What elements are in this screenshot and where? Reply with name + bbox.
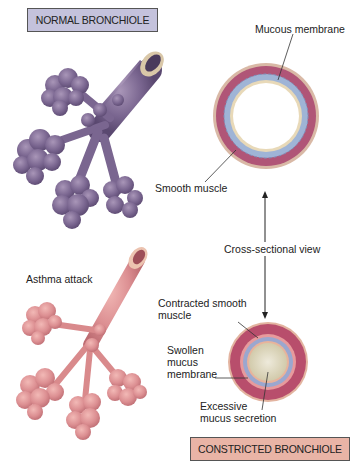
normal-bronchiole-illustration	[13, 47, 169, 229]
label-smooth-muscle: Smooth muscle	[155, 182, 227, 194]
label-cross-sectional-view: Cross-sectional view	[222, 243, 322, 255]
label-asthma-attack: Asthma attack	[26, 273, 93, 285]
normal-cross-section	[205, 34, 319, 182]
label-excessive-mucus-secretion: Excessive mucus secretion	[200, 400, 276, 424]
label-swollen-mucus-membrane: Swollen mucus membrane	[167, 344, 217, 380]
label-contracted-smooth-muscle: Contracted smooth muscle	[158, 297, 247, 321]
constricted-cross-section	[215, 322, 308, 410]
cross-section-arrow	[262, 191, 268, 319]
constricted-bronchiole-title: CONSTRICTED BRONCHIOLE	[190, 437, 350, 461]
label-mucous-membrane: Mucous membrane	[255, 23, 345, 35]
diagram-artwork	[0, 0, 353, 476]
